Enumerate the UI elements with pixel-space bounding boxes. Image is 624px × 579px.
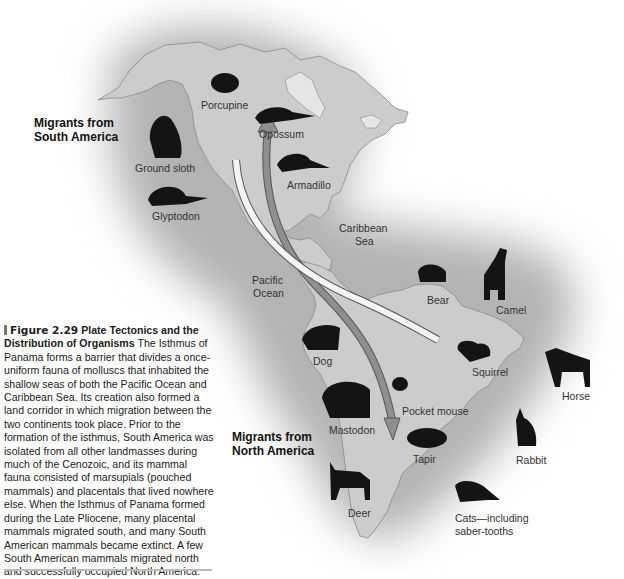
label-armadillo: Armadillo xyxy=(287,179,331,191)
label-pocket-mouse: Pocket mouse xyxy=(402,405,469,417)
group-title-line: Migrants from xyxy=(34,116,118,130)
tapir-icon xyxy=(407,428,447,448)
label-deer: Deer xyxy=(348,507,371,519)
label-ground-sloth: Ground sloth xyxy=(135,162,195,174)
label-sea: Sea xyxy=(355,235,374,247)
porcupine-icon xyxy=(211,73,239,93)
label-caribbean: Caribbean xyxy=(339,222,387,234)
group-title-line: South America xyxy=(34,130,118,144)
label-porcupine: Porcupine xyxy=(201,99,248,111)
label-dog: Dog xyxy=(313,355,332,367)
group-title-line: North America xyxy=(232,444,314,458)
figure-caption-text: The Isthmus of Panama forms a barrier th… xyxy=(4,337,214,577)
figure-marker-icon xyxy=(4,325,7,335)
label-opossum: Opossum xyxy=(259,128,304,140)
label-cats: Cats—including xyxy=(455,512,529,524)
figure-caption: Figure 2.29 Plate Tectonics and the Dist… xyxy=(4,324,216,579)
group-title-line: Migrants from xyxy=(232,430,314,444)
label-glyptodon: Glyptodon xyxy=(152,210,200,222)
label-squirrel: Squirrel xyxy=(472,366,508,378)
caption-divider xyxy=(4,569,212,571)
cat-icon xyxy=(455,481,500,502)
label-tapir: Tapir xyxy=(413,453,436,465)
figure-number: Figure 2.29 xyxy=(10,324,78,336)
label-pacific: Pacific xyxy=(252,274,283,286)
label-camel: Camel xyxy=(496,304,526,316)
label-ocean: Ocean xyxy=(253,287,284,299)
rabbit-icon xyxy=(516,408,536,446)
mastodon-icon xyxy=(322,382,370,418)
pocket-mouse-icon xyxy=(392,377,408,391)
label-rabbit: Rabbit xyxy=(516,454,546,466)
label-bear: Bear xyxy=(427,294,449,306)
group-title-from-south: Migrants from South America xyxy=(34,116,118,144)
label-mastodon: Mastodon xyxy=(329,424,375,436)
label-horse: Horse xyxy=(562,390,590,402)
group-title-from-north: Migrants from North America xyxy=(232,430,314,458)
horse-icon xyxy=(545,348,590,387)
label-saber-tooths: saber-tooths xyxy=(455,525,513,537)
